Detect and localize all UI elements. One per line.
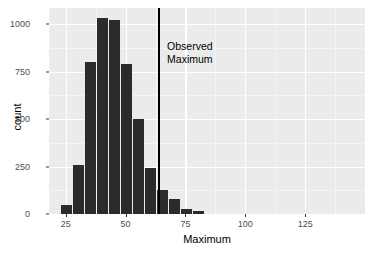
gridline-major-vertical bbox=[185, 8, 186, 214]
gridline-minor-vertical bbox=[335, 8, 336, 214]
histogram-bar bbox=[109, 20, 120, 214]
annotation-line-1: Observed bbox=[167, 40, 213, 53]
y-axis-tick-mark bbox=[46, 71, 49, 72]
histogram-figure: ObservedMaximum Maximum count 0250500750… bbox=[0, 0, 375, 260]
observed-maximum-annotation: ObservedMaximum bbox=[167, 40, 213, 66]
x-axis-title: Maximum bbox=[49, 233, 365, 245]
y-axis-tick-mark bbox=[46, 24, 49, 25]
observed-maximum-line bbox=[158, 8, 160, 214]
histogram-bar bbox=[85, 62, 96, 214]
histogram-bar bbox=[133, 119, 144, 214]
plot-panel: ObservedMaximum bbox=[49, 8, 365, 214]
y-axis-tick-label: 250 bbox=[15, 162, 30, 172]
annotation-line-2: Maximum bbox=[167, 53, 213, 66]
histogram-bar bbox=[169, 199, 180, 214]
x-axis-tick-mark bbox=[245, 214, 246, 217]
x-axis-tick-label: 100 bbox=[238, 219, 253, 229]
gridline-major-vertical bbox=[66, 8, 67, 214]
y-axis-tick-mark bbox=[46, 214, 49, 215]
y-axis-tick-label: 750 bbox=[15, 67, 30, 77]
gridline-minor-vertical bbox=[275, 8, 276, 214]
y-axis-tick-mark bbox=[46, 119, 49, 120]
x-axis-tick-label: 75 bbox=[180, 219, 190, 229]
gridline-minor-vertical bbox=[215, 8, 216, 214]
histogram-bar bbox=[61, 205, 72, 214]
histogram-bar bbox=[193, 211, 204, 214]
x-axis-tick-mark bbox=[185, 214, 186, 217]
histogram-bar bbox=[73, 165, 84, 214]
gridline-major-vertical bbox=[305, 8, 306, 214]
x-axis-tick-mark bbox=[126, 214, 127, 217]
y-axis-tick-label: 0 bbox=[25, 209, 30, 219]
y-axis-tick-mark bbox=[46, 166, 49, 167]
x-axis-tick-mark bbox=[66, 214, 67, 217]
histogram-bar bbox=[145, 168, 156, 214]
y-axis-tick-label: 500 bbox=[15, 114, 30, 124]
x-axis-tick-label: 25 bbox=[61, 219, 71, 229]
x-axis-tick-label: 50 bbox=[121, 219, 131, 229]
x-axis-tick-label: 125 bbox=[298, 219, 313, 229]
histogram-bar bbox=[121, 64, 132, 214]
histogram-bar bbox=[97, 18, 108, 214]
y-axis-tick-label: 1000 bbox=[10, 19, 30, 29]
gridline-major-vertical bbox=[245, 8, 246, 214]
x-axis-tick-mark bbox=[305, 214, 306, 217]
